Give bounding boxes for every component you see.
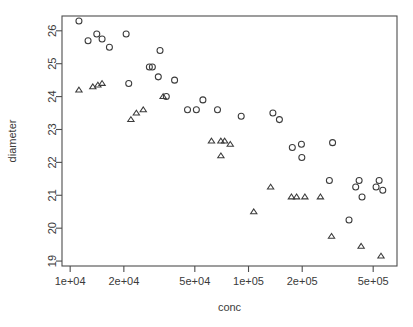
data-point-circle <box>215 107 221 113</box>
data-point-triangle <box>99 81 105 86</box>
data-point-circle <box>356 177 362 183</box>
data-point-triangle <box>251 209 257 214</box>
y-tick-label: 26 <box>46 25 58 37</box>
data-point-circle <box>106 44 112 50</box>
data-point-triangle <box>302 194 308 199</box>
data-point-circle <box>200 97 206 103</box>
data-point-circle <box>289 145 295 151</box>
data-point-circle <box>330 140 336 146</box>
data-point-triangle <box>317 194 323 199</box>
y-tick-label: 25 <box>46 58 58 70</box>
data-point-circle <box>353 184 359 190</box>
data-point-circle <box>359 194 365 200</box>
y-tick-label: 24 <box>46 90 58 102</box>
data-point-triangle <box>140 107 146 112</box>
data-point-circle <box>270 110 276 116</box>
data-point-circle <box>123 31 129 37</box>
scatter-plot-figure: 1e+042e+045e+041e+052e+055e+051920212223… <box>0 0 413 327</box>
x-axis: 1e+042e+045e+041e+052e+055e+05 <box>55 266 389 287</box>
y-tick-label: 21 <box>46 189 58 201</box>
data-point-circle <box>298 141 304 147</box>
x-tick-label: 2e+04 <box>108 275 139 287</box>
series-circle <box>76 18 386 223</box>
data-point-circle <box>126 80 132 86</box>
y-tick-label: 23 <box>46 123 58 135</box>
y-axis: 1920212223242526 <box>46 25 62 268</box>
data-point-triangle <box>267 184 273 189</box>
data-point-circle <box>155 74 161 80</box>
data-point-circle <box>346 217 352 223</box>
x-axis-title: conc <box>218 301 242 313</box>
data-point-circle <box>94 31 100 37</box>
data-point-triangle <box>133 110 139 115</box>
series-triangle <box>76 81 384 258</box>
y-tick-label: 19 <box>46 255 58 267</box>
plot-frame <box>62 16 397 266</box>
data-point-circle <box>326 177 332 183</box>
plot-canvas: 1e+042e+045e+041e+052e+055e+051920212223… <box>0 0 413 327</box>
data-point-circle <box>238 113 244 119</box>
data-point-triangle <box>208 138 214 143</box>
data-point-triangle <box>128 117 134 122</box>
data-point-triangle <box>227 141 233 146</box>
data-point-circle <box>76 18 82 24</box>
y-axis-title: diameter <box>6 119 18 162</box>
data-point-circle <box>193 107 199 113</box>
data-point-circle <box>172 77 178 83</box>
data-point-circle <box>185 107 191 113</box>
data-point-circle <box>85 38 91 44</box>
data-point-triangle <box>218 153 224 158</box>
x-tick-label: 1e+05 <box>233 275 264 287</box>
y-tick-label: 20 <box>46 222 58 234</box>
x-tick-label: 1e+04 <box>55 275 86 287</box>
x-tick-label: 2e+05 <box>287 275 318 287</box>
data-point-circle <box>99 36 105 42</box>
x-tick-label: 5e+05 <box>358 275 389 287</box>
data-point-triangle <box>378 253 384 258</box>
x-tick-label: 5e+04 <box>179 275 210 287</box>
data-point-circle <box>373 184 379 190</box>
data-point-circle <box>157 48 163 54</box>
data-point-triangle <box>76 87 82 92</box>
data-point-triangle <box>328 234 334 239</box>
y-tick-label: 22 <box>46 156 58 168</box>
data-point-triangle <box>293 194 299 199</box>
data-point-circle <box>299 154 305 160</box>
data-point-circle <box>380 187 386 193</box>
data-point-circle <box>276 117 282 123</box>
data-point-circle <box>376 177 382 183</box>
data-point-triangle <box>358 243 364 248</box>
